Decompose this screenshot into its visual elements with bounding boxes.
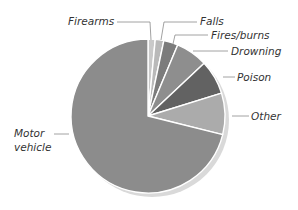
- label-poison: Poison: [237, 71, 271, 83]
- label-motor-vehicle-line2: vehicle: [14, 141, 51, 153]
- pie-slices: [71, 39, 225, 193]
- leader-falls: [161, 22, 197, 40]
- label-other: Other: [251, 110, 281, 122]
- label-motor-vehicle: Motor vehicle: [14, 127, 51, 153]
- label-motor-vehicle-line1: Motor: [14, 127, 45, 139]
- leader-fires-burns: [173, 35, 208, 44]
- label-firearms: Firearms: [68, 15, 115, 27]
- label-fires-burns: Fires/burns: [211, 29, 270, 41]
- pie-chart: Firearms Falls Fires/burns Drowning Pois…: [0, 0, 298, 210]
- label-falls: Falls: [200, 15, 224, 27]
- leader-firearms: [117, 22, 151, 40]
- label-drowning: Drowning: [231, 45, 282, 57]
